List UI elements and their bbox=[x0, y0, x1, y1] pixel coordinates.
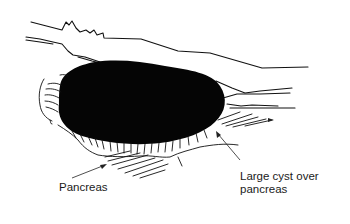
pancreas-leader-line bbox=[72, 165, 105, 178]
cyst-shape bbox=[59, 61, 225, 145]
label-large-cyst: Large cyst over pancreas bbox=[240, 170, 319, 196]
cyst-leader-line bbox=[218, 134, 240, 160]
right-duct-mid bbox=[223, 93, 290, 98]
right-duct-lower bbox=[227, 104, 278, 106]
pancreas-arrowhead bbox=[100, 164, 107, 169]
right-duct-upper bbox=[216, 81, 292, 93]
upper-organ-outline bbox=[31, 21, 308, 68]
upper-organ-lower-edge bbox=[26, 37, 100, 62]
label-pancreas: Pancreas bbox=[59, 181, 108, 194]
label-cyst-line1: Large cyst over bbox=[240, 170, 319, 183]
label-cyst-line2: pancreas bbox=[240, 183, 319, 196]
